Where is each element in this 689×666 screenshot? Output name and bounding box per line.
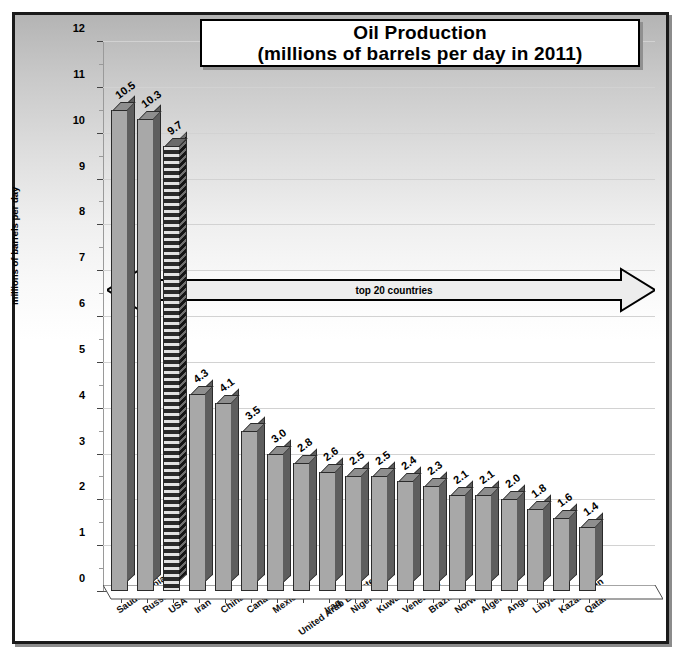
bar-value-label: 1.8 <box>529 481 548 500</box>
bar-iran <box>189 394 206 591</box>
y-minor-tick <box>99 293 103 294</box>
y-minor-tick <box>99 339 103 340</box>
bar-norway <box>449 495 466 591</box>
bar-russia <box>137 119 154 591</box>
y-minor-tick <box>99 431 103 432</box>
bar-side-face <box>153 104 161 582</box>
bar-side-face <box>465 480 473 582</box>
chart-title-box: Oil Production (millions of barrels per … <box>200 19 640 67</box>
bar-value-label: 3.0 <box>269 426 288 445</box>
y-axis-title: millions of barrels per day <box>9 187 20 305</box>
bar-value-label: 2.4 <box>399 453 418 472</box>
y-tick-label-1: 1 <box>57 526 85 538</box>
bar-value-label: 9.7 <box>165 119 184 138</box>
y-tick-label-8: 8 <box>57 205 85 217</box>
y-tick-label-0: 0 <box>57 572 85 584</box>
bar-side-face <box>387 462 395 582</box>
bar-value-label: 2.5 <box>347 449 366 468</box>
y-tick-mark-1 <box>97 545 103 546</box>
bar-value-label: 2.0 <box>503 472 522 491</box>
bar-side-face <box>205 379 213 582</box>
y-tick-label-5: 5 <box>57 343 85 355</box>
bar-united-arab-emirates <box>293 463 310 591</box>
bar-side-face <box>179 132 187 582</box>
y-tick-label-10: 10 <box>57 114 85 126</box>
chart-title: Oil Production <box>353 23 487 43</box>
bar-value-label: 3.5 <box>243 403 262 422</box>
y-tick-mark-4 <box>97 408 103 409</box>
bar-value-label: 2.1 <box>477 467 496 486</box>
bar-value-label: 1.6 <box>555 490 574 509</box>
bar-value-label: 1.4 <box>581 499 600 518</box>
y-minor-tick <box>99 201 103 202</box>
y-tick-mark-9 <box>97 179 103 180</box>
y-tick-mark-8 <box>97 224 103 225</box>
bar-side-face <box>127 95 135 582</box>
bar-side-face <box>231 389 239 582</box>
bar-saudi-arabia <box>111 110 128 591</box>
chart-subtitle: (millions of barrels per day in 2011) <box>257 43 582 64</box>
y-tick-label-11: 11 <box>57 68 85 80</box>
bar-side-face <box>491 480 499 582</box>
bar-venezuela <box>397 481 414 591</box>
bar-side-face <box>439 471 447 582</box>
bar-side-face <box>361 462 369 582</box>
y-tick-label-7: 7 <box>57 251 85 263</box>
bar-algeria <box>475 495 492 591</box>
y-tick-label-6: 6 <box>57 297 85 309</box>
y-minor-tick <box>99 64 103 65</box>
bar-side-face <box>517 485 525 582</box>
y-tick-mark-6 <box>97 316 103 317</box>
bar-value-label: 2.5 <box>373 449 392 468</box>
y-tick-label-2: 2 <box>57 480 85 492</box>
y-tick-mark-5 <box>97 362 103 363</box>
y-minor-tick <box>99 568 103 569</box>
bar-angola <box>501 499 518 591</box>
y-minor-tick <box>99 247 103 248</box>
y-minor-tick <box>99 522 103 523</box>
top-20-annotation: top 20 countries <box>107 263 655 317</box>
bar-side-face <box>257 416 265 582</box>
y-tick-label-12: 12 <box>57 22 85 34</box>
annotation-label: top 20 countries <box>107 263 655 317</box>
y-tick-label-4: 4 <box>57 389 85 401</box>
bar-value-label: 4.3 <box>191 366 210 385</box>
y-minor-tick <box>99 110 103 111</box>
y-minor-tick <box>99 385 103 386</box>
chart-screenshot: 10.510.39.74.34.13.53.02.82.62.52.52.42.… <box>0 0 689 666</box>
bar-side-face <box>335 457 343 582</box>
bar-usa <box>163 146 180 591</box>
bar-china <box>215 403 232 591</box>
bar-qatar <box>579 527 596 591</box>
bar-value-label: 2.8 <box>295 435 314 454</box>
bar-brazil <box>423 486 440 591</box>
y-minor-tick <box>99 476 103 477</box>
y-tick-mark-12 <box>97 41 103 42</box>
bar-iraq <box>319 472 336 591</box>
bar-libya <box>527 509 544 592</box>
y-tick-label-3: 3 <box>57 435 85 447</box>
y-minor-tick <box>99 156 103 157</box>
y-tick-label-9: 9 <box>57 160 85 172</box>
bar-side-face <box>309 448 317 582</box>
y-tick-mark-2 <box>97 499 103 500</box>
bar-value-label: 2.3 <box>425 458 444 477</box>
bar-value-label: 2.1 <box>451 467 470 486</box>
bar-canada <box>241 431 258 591</box>
bar-side-face <box>413 467 421 582</box>
bar-nigeria <box>345 476 362 591</box>
y-tick-mark-3 <box>97 454 103 455</box>
y-tick-mark-10 <box>97 133 103 134</box>
bar-kuwait <box>371 476 388 591</box>
bar-side-face <box>283 439 291 582</box>
y-tick-mark-7 <box>97 270 103 271</box>
bar-mexico <box>267 454 284 592</box>
bar-kazakhstan <box>553 518 570 591</box>
y-tick-mark-11 <box>97 87 103 88</box>
bar-value-label: 2.6 <box>321 444 340 463</box>
bar-value-label: 4.1 <box>217 375 236 394</box>
chart-frame: 10.510.39.74.34.13.53.02.82.62.52.52.42.… <box>12 12 669 644</box>
